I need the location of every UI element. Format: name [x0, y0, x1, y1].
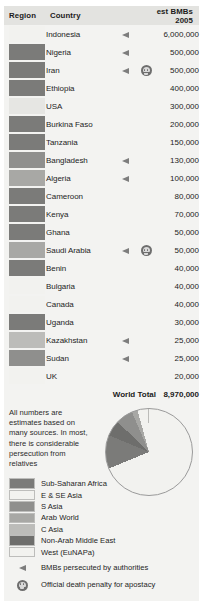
skull-icon: [141, 65, 152, 76]
death-penalty-marker-cell: [136, 187, 156, 205]
est-bmbs-value: 200,000: [156, 115, 199, 133]
region-swatch-cell: [4, 259, 46, 277]
death-penalty-marker-cell: [136, 97, 156, 115]
country-label: Bulgaria: [46, 277, 114, 295]
header-mark-spacer: [114, 6, 136, 25]
persecuted-marker-cell: [114, 277, 136, 295]
table-row: Algeria100,000: [4, 169, 199, 187]
legend-swatch: [9, 524, 35, 535]
legend-swatch: [9, 501, 35, 512]
country-label: UK: [46, 367, 114, 385]
legend-item: S Asia: [9, 501, 195, 512]
persecuted-marker-cell: [114, 61, 136, 79]
country-label: Algeria: [46, 169, 114, 187]
triangle-icon: [122, 356, 129, 362]
legend-label: West (EuNAPa): [35, 548, 94, 557]
legend-label: C Asia: [35, 525, 63, 534]
region-swatch: [9, 224, 45, 240]
persecuted-marker-cell: [114, 349, 136, 367]
table-row: Indonesia6,000,000: [4, 25, 199, 43]
region-swatch-cell: [4, 25, 46, 43]
persecuted-marker-cell: [114, 223, 136, 241]
death-penalty-marker-cell: [136, 241, 156, 259]
legend-label: E & SE Asia: [35, 491, 82, 500]
table-row: Nigeria500,000: [4, 43, 199, 61]
table-row: Benin40,000: [4, 259, 199, 277]
persecuted-marker-cell: [114, 259, 136, 277]
country-label: Uganda: [46, 313, 114, 331]
persecuted-marker-cell: [114, 187, 136, 205]
country-label: Saudi Arabia: [46, 241, 114, 259]
country-label: Kenya: [46, 205, 114, 223]
death-penalty-marker-cell: [136, 367, 156, 385]
est-bmbs-value: 70,000: [156, 205, 199, 223]
country-label: Nigeria: [46, 43, 114, 61]
death-penalty-marker-cell: [136, 169, 156, 187]
header-skull-spacer: [136, 6, 156, 25]
legend-label: Arab World: [35, 513, 79, 522]
region-swatch-cell: [4, 61, 46, 79]
table-row: Saudi Arabia50,000: [4, 241, 199, 259]
region-swatch-cell: [4, 151, 46, 169]
region-swatch: [9, 314, 45, 330]
country-label: Cameroon: [46, 187, 114, 205]
table-header-row: Region Country est BMBs 2005: [4, 6, 199, 25]
region-swatch-cell: [4, 97, 46, 115]
legend-label: Sub-Saharan Africa: [35, 479, 107, 488]
death-penalty-marker-cell: [136, 115, 156, 133]
est-bmbs-value: 50,000: [156, 241, 199, 259]
table-row: Uganda30,000: [4, 313, 199, 331]
persecuted-marker-cell: [114, 295, 136, 313]
country-label: Kazakhstan: [46, 331, 114, 349]
world-total-label: World Total: [46, 385, 156, 404]
persecuted-marker-cell: [114, 43, 136, 61]
country-label: Iran: [46, 61, 114, 79]
triangle-icon: [122, 32, 129, 38]
est-bmbs-value: 25,000: [156, 349, 199, 367]
table-row: Bulgaria40,000: [4, 277, 199, 295]
death-penalty-marker-cell: [136, 79, 156, 97]
legend-item: E & SE Asia: [9, 489, 195, 500]
legend-swatch: [9, 478, 35, 489]
table-row: Burkina Faso200,000: [4, 115, 199, 133]
region-swatch: [9, 278, 45, 294]
legend: Sub-Saharan AfricaE & SE AsiaS AsiaArab …: [9, 478, 195, 592]
triangle-icon: [122, 158, 129, 164]
death-penalty-marker-cell: [136, 349, 156, 367]
region-swatch-cell: [4, 133, 46, 151]
persecuted-marker-cell: [114, 331, 136, 349]
header-region: Region: [4, 6, 46, 25]
region-swatch: [9, 188, 45, 204]
est-bmbs-value: 20,000: [156, 367, 199, 385]
persecuted-marker-cell: [114, 133, 136, 151]
region-swatch-cell: [4, 313, 46, 331]
legend-swatch: [9, 547, 35, 558]
country-label: Indonesia: [46, 25, 114, 43]
lower-panel: All numbers are estimates based on many …: [4, 404, 199, 601]
persecuted-marker-cell: [114, 313, 136, 331]
death-penalty-marker-cell: [136, 277, 156, 295]
death-penalty-marker-cell: [136, 43, 156, 61]
region-swatch: [9, 116, 45, 132]
region-swatch-cell: [4, 277, 46, 295]
region-swatch: [9, 62, 45, 78]
legend-swatch: [9, 490, 35, 501]
table-row: USA300,000: [4, 97, 199, 115]
est-bmbs-value: 80,000: [156, 187, 199, 205]
region-swatch: [9, 98, 45, 114]
skull-icon: [141, 245, 152, 256]
est-bmbs-value: 130,000: [156, 151, 199, 169]
death-penalty-marker-cell: [136, 133, 156, 151]
est-bmbs-value: 40,000: [156, 295, 199, 313]
est-bmbs-value: 40,000: [156, 259, 199, 277]
table-row: Canada40,000: [4, 295, 199, 313]
region-swatch-cell: [4, 295, 46, 313]
region-swatch: [9, 170, 45, 186]
death-penalty-marker-cell: [136, 331, 156, 349]
country-label: Sudan: [46, 349, 114, 367]
world-total-value: 8,970,000: [156, 385, 199, 404]
region-swatch: [9, 350, 45, 366]
region-swatch: [9, 242, 45, 258]
country-label: Ghana: [46, 223, 114, 241]
est-bmbs-value: 500,000: [156, 61, 199, 79]
